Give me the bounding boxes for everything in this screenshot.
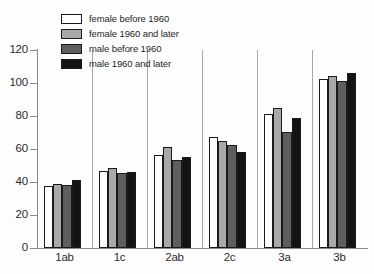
legend-item: male before 1960: [61, 42, 221, 55]
bar: [72, 180, 81, 248]
y-axis-tick-label: 0: [0, 242, 28, 254]
y-axis-tick-label: 100: [0, 77, 28, 89]
x-axis-tick-label: 2ab: [147, 252, 202, 264]
y-axis-tick: [30, 149, 37, 150]
bar: [319, 79, 328, 248]
bar: [154, 155, 163, 248]
y-axis-tick-label: 20: [0, 209, 28, 221]
y-axis-tick: [30, 116, 37, 117]
bar: [347, 73, 356, 248]
legend-item: female before 1960: [61, 12, 221, 25]
legend-item-label: female before 1960: [89, 14, 169, 24]
y-axis-tick: [30, 83, 37, 84]
x-axis-tick-label: 3b: [312, 252, 367, 264]
bar-group: [264, 50, 301, 248]
y-axis-tick: [30, 50, 37, 51]
bar-chart: 020406080100120 1ab1c2ab2c3a3b female be…: [0, 0, 374, 274]
bar: [227, 145, 236, 248]
y-axis-tick-label: 80: [0, 110, 28, 122]
bar-group: [154, 50, 191, 248]
legend-swatch: [61, 29, 82, 39]
y-axis-tick-label: 60: [0, 143, 28, 155]
legend-swatch: [61, 14, 82, 24]
bar: [53, 184, 62, 248]
legend-swatch: [61, 59, 82, 69]
bar: [264, 114, 273, 248]
y-axis-tick: [30, 215, 37, 216]
legend-item-label: male before 1960: [89, 44, 161, 54]
bar: [292, 118, 301, 248]
bar: [163, 147, 172, 248]
bar: [127, 172, 136, 248]
bar: [99, 171, 108, 248]
y-axis-tick-label: 120: [0, 44, 28, 56]
legend-item: male 1960 and later: [61, 57, 221, 70]
bar: [337, 81, 346, 248]
legend-item: female 1960 and later: [61, 27, 221, 40]
x-axis-tick-label: 1ab: [37, 252, 92, 264]
x-axis-tick-label: 3a: [257, 252, 312, 264]
legend-item-label: male 1960 and later: [89, 59, 171, 69]
bar: [108, 168, 117, 248]
legend-swatch: [61, 44, 82, 54]
bar: [282, 132, 291, 248]
bar: [172, 160, 181, 248]
bar: [273, 108, 282, 248]
bar: [237, 152, 246, 248]
bar: [62, 185, 71, 248]
bar-group: [44, 50, 81, 248]
legend-item-label: female 1960 and later: [89, 29, 179, 39]
bar: [218, 141, 227, 248]
y-axis-tick: [30, 182, 37, 183]
bar: [117, 173, 126, 248]
bar: [182, 157, 191, 248]
bar: [209, 137, 218, 248]
y-axis-tick: [30, 248, 37, 249]
bar: [328, 76, 337, 248]
chart-legend: female before 1960female 1960 and laterm…: [61, 12, 221, 72]
bar-group: [209, 50, 246, 248]
bar-group: [99, 50, 136, 248]
x-axis-line: [37, 248, 368, 249]
x-axis-tick-label: 1c: [92, 252, 147, 264]
plot-area: [37, 50, 367, 248]
bar: [44, 186, 53, 248]
x-axis-tick-label: 2c: [202, 252, 257, 264]
y-axis-tick-label: 40: [0, 176, 28, 188]
bar-group: [319, 50, 356, 248]
